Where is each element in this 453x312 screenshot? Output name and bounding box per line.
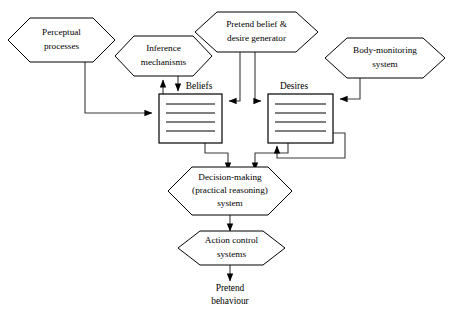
node-desires-store[interactable]: Desires	[268, 81, 333, 143]
node-beliefs-store[interactable]: Beliefs	[159, 81, 222, 143]
node-perceptual-processes[interactable]: Perceptual processes	[8, 18, 115, 62]
node-inference-mechanisms[interactable]: Inference mechanisms	[115, 36, 212, 76]
decision-making-label-line2: (practical reasoning)	[192, 185, 268, 195]
node-pretend-belief-desire-generator[interactable]: Pretend belief & desire generator	[195, 12, 318, 52]
perceptual-processes-label-line1: Perceptual	[42, 27, 81, 37]
connector-desires-to-decision	[255, 143, 288, 170]
connector-generator-to-desires	[255, 52, 261, 101]
action-control-label-line1: Action control	[205, 235, 259, 245]
inference-mechanisms-label-line2: mechanisms	[141, 57, 187, 67]
perceptual-processes-label-line2: processes	[44, 41, 80, 51]
action-control-label-line2: systems	[217, 249, 247, 259]
pretend-behaviour-label-line1: Pretend	[216, 283, 245, 293]
node-pretend-behaviour: Pretend behaviour	[211, 283, 249, 306]
pretend-generator-label-line2: desire generator	[227, 33, 286, 43]
pretend-generator-label-line1: Pretend belief &	[226, 19, 287, 29]
desires-label: Desires	[280, 81, 308, 91]
node-action-control-systems[interactable]: Action control systems	[178, 231, 285, 265]
body-monitoring-label-line2: system	[372, 59, 398, 69]
node-body-monitoring-system[interactable]: Body-monitoring system	[325, 38, 445, 78]
decision-making-label-line1: Decision-making	[198, 172, 262, 182]
node-decision-making-system[interactable]: Decision-making (practical reasoning) sy…	[168, 167, 292, 215]
architecture-diagram: Perceptual processes Inference mechanism…	[0, 0, 453, 312]
pretend-behaviour-label-line2: behaviour	[211, 296, 249, 306]
connector-generator-to-beliefs	[229, 52, 240, 101]
connector-beliefs-to-decision	[205, 143, 228, 170]
inference-mechanisms-label-line1: Inference	[146, 43, 181, 53]
body-monitoring-label-line1: Body-monitoring	[353, 45, 417, 55]
connector-body-monitoring-to-desires	[340, 78, 360, 99]
beliefs-label: Beliefs	[186, 81, 213, 91]
decision-making-label-line3: system	[217, 198, 243, 208]
diagram-canvas: Perceptual processes Inference mechanism…	[0, 0, 453, 312]
